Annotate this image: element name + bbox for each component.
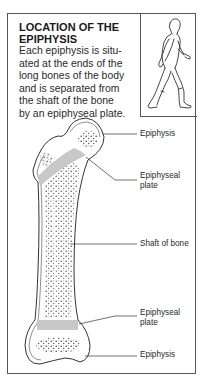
label-epiphyseal-plate-top: Epiphyseal plate xyxy=(140,171,180,191)
label-epiphysis-bottom: Epiphysis xyxy=(140,350,175,360)
leader-plate-top xyxy=(86,157,137,180)
label-shaft-of-bone: Shaft of bone xyxy=(140,239,189,249)
label-text: Epiphysis xyxy=(140,350,175,360)
lower-epiphyseal-plate xyxy=(37,320,78,330)
label-text: plate xyxy=(140,181,180,191)
label-text: Shaft of bone xyxy=(140,239,189,249)
label-epiphysis-top: Epiphysis xyxy=(140,129,175,139)
label-epiphyseal-plate-bottom: Epiphyseal plate xyxy=(140,308,180,328)
label-text: Epiphysis xyxy=(140,129,175,139)
label-text: Epiphyseal xyxy=(140,308,180,318)
label-text: Epiphyseal xyxy=(140,171,180,181)
label-text: plate xyxy=(140,318,180,328)
leader-plate-bottom xyxy=(79,316,137,324)
femur-bone-icon xyxy=(0,0,209,390)
